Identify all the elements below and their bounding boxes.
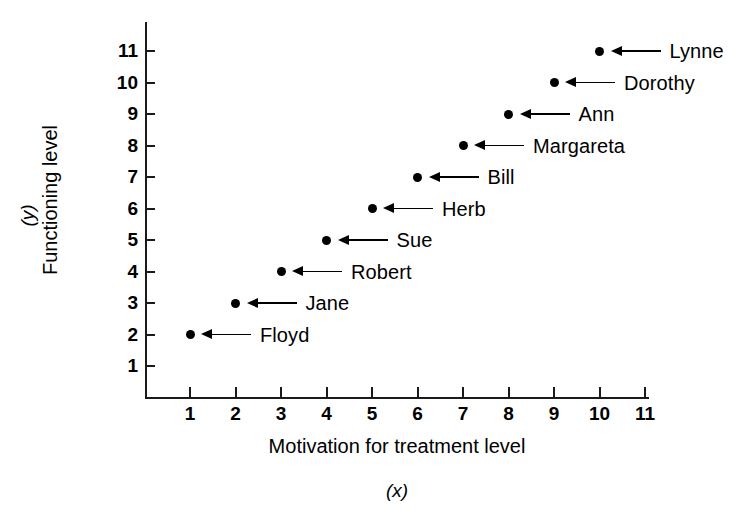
x-axis-tick-label: 7 bbox=[443, 404, 483, 423]
y-axis-tick-label-text: 8 bbox=[108, 136, 138, 155]
x-axis-tick bbox=[371, 387, 373, 398]
point-label: Sue bbox=[397, 230, 433, 250]
arrow-shaft bbox=[481, 145, 524, 147]
x-axis-tick-label: 6 bbox=[398, 404, 438, 423]
arrow-left-icon bbox=[201, 329, 251, 341]
data-point bbox=[413, 173, 422, 182]
y-axis-tick bbox=[145, 239, 155, 241]
x-axis-tick-label: 9 bbox=[534, 404, 574, 423]
x-axis-tick-label: 3 bbox=[261, 404, 301, 423]
x-axis-tick bbox=[599, 387, 601, 398]
x-axis-variable-label: (x) bbox=[145, 481, 649, 500]
arrow-shaft bbox=[618, 50, 661, 52]
data-point bbox=[504, 110, 513, 119]
x-axis-tick bbox=[508, 387, 510, 398]
x-axis-tick-label: 5 bbox=[352, 404, 392, 423]
y-variable-text: (y) bbox=[17, 204, 38, 226]
x-axis-tick bbox=[280, 387, 282, 398]
arrow-shaft bbox=[436, 176, 479, 178]
y-axis-tick bbox=[145, 50, 155, 52]
point-label: Herb bbox=[442, 199, 486, 219]
x-axis-tick bbox=[235, 387, 237, 398]
x-axis-tick-label: 1 bbox=[170, 404, 210, 423]
point-label: Robert bbox=[351, 262, 412, 282]
arrow-left-icon bbox=[383, 203, 433, 215]
y-axis-tick-label-text: 6 bbox=[108, 199, 138, 218]
arrow-shaft bbox=[254, 302, 297, 304]
arrow-shaft bbox=[208, 334, 251, 336]
y-axis-title: Functioning level bbox=[40, 60, 60, 340]
y-axis-tick-label-text: 11 bbox=[108, 41, 138, 60]
data-point bbox=[595, 47, 604, 56]
arrow-shaft bbox=[527, 113, 570, 115]
y-axis-tick bbox=[145, 365, 155, 367]
y-axis-tick-label-text: 9 bbox=[108, 104, 138, 123]
y-axis-tick-label-text: 1 bbox=[108, 356, 138, 375]
arrow-left-icon bbox=[338, 234, 388, 246]
y-axis-tick-label-text: 10 bbox=[108, 73, 138, 92]
y-axis-line bbox=[145, 22, 147, 398]
arrow-left-icon bbox=[474, 140, 524, 152]
x-axis-title: Motivation for treatment level bbox=[145, 436, 649, 456]
y-axis-tick bbox=[145, 302, 155, 304]
y-axis-tick-label-text: 3 bbox=[108, 293, 138, 312]
y-axis-tick bbox=[145, 334, 155, 336]
arrow-shaft bbox=[572, 82, 615, 84]
point-annotation: Floyd bbox=[201, 324, 309, 346]
x-axis-tick-label: 2 bbox=[216, 404, 256, 423]
arrow-left-icon bbox=[611, 45, 661, 57]
point-annotation: Jane bbox=[247, 292, 350, 314]
arrow-left-icon bbox=[429, 171, 479, 183]
y-axis-variable-label: (y) bbox=[18, 136, 37, 296]
point-annotation: Robert bbox=[292, 261, 412, 283]
x-axis-line bbox=[145, 397, 649, 399]
x-axis-tick-label: 11 bbox=[625, 404, 665, 423]
x-axis-tick-label: 4 bbox=[307, 404, 347, 423]
x-axis-tick bbox=[417, 387, 419, 398]
x-axis-tick bbox=[644, 387, 646, 398]
arrow-shaft bbox=[299, 271, 342, 273]
point-label: Lynne bbox=[670, 41, 724, 61]
y-axis-tick-label-text: 7 bbox=[108, 167, 138, 186]
x-axis-tick bbox=[553, 387, 555, 398]
point-annotation: Sue bbox=[338, 229, 433, 251]
point-label: Margareta bbox=[533, 136, 625, 156]
point-label: Floyd bbox=[260, 325, 309, 345]
arrow-left-icon bbox=[292, 266, 342, 278]
x-axis-tick bbox=[462, 387, 464, 398]
y-axis-tick-label-text: 2 bbox=[108, 325, 138, 344]
data-point bbox=[277, 267, 286, 276]
scatter-plot: 1234567891011 1234567891011 FloydJaneRob… bbox=[0, 0, 752, 527]
point-annotation: Herb bbox=[383, 198, 486, 220]
data-point bbox=[231, 299, 240, 308]
x-axis-tick-label: 8 bbox=[489, 404, 529, 423]
data-point bbox=[459, 141, 468, 150]
y-axis-tick bbox=[145, 176, 155, 178]
data-point bbox=[368, 204, 377, 213]
y-axis-tick bbox=[145, 113, 155, 115]
data-point bbox=[186, 330, 195, 339]
point-annotation: Ann bbox=[520, 103, 615, 125]
point-label: Bill bbox=[488, 167, 515, 187]
point-label: Dorothy bbox=[624, 73, 695, 93]
arrow-left-icon bbox=[520, 108, 570, 120]
y-axis-tick bbox=[145, 208, 155, 210]
data-point bbox=[550, 78, 559, 87]
point-label: Jane bbox=[306, 293, 350, 313]
x-axis-tick-label: 10 bbox=[580, 404, 620, 423]
point-annotation: Margareta bbox=[474, 135, 625, 157]
y-axis-tick bbox=[145, 82, 155, 84]
y-axis-tick bbox=[145, 271, 155, 273]
x-axis-tick bbox=[189, 387, 191, 398]
y-axis-tick-label-text: 5 bbox=[108, 230, 138, 249]
x-axis-tick bbox=[326, 387, 328, 398]
arrow-left-icon bbox=[565, 77, 615, 89]
point-annotation: Dorothy bbox=[565, 72, 695, 94]
x-variable-text: (x) bbox=[386, 480, 408, 501]
y-axis-tick bbox=[145, 145, 155, 147]
arrow-left-icon bbox=[247, 297, 297, 309]
data-point bbox=[322, 236, 331, 245]
arrow-shaft bbox=[390, 208, 433, 210]
point-label: Ann bbox=[579, 104, 615, 124]
point-annotation: Lynne bbox=[611, 40, 724, 62]
